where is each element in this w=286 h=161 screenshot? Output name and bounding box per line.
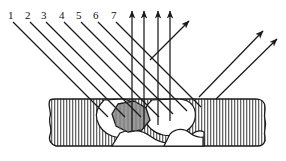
ray-label-5: 5 [76, 10, 82, 21]
figure-canvas: 1 2 3 4 5 6 7 [0, 0, 286, 161]
ray-label-6: 6 [93, 10, 99, 21]
ray-label-3: 3 [41, 10, 47, 21]
ray-diagram-svg [0, 0, 286, 161]
ray-label-4: 4 [59, 10, 65, 21]
exit-ray-2 [199, 31, 263, 97]
incident-ray-6 [98, 22, 187, 111]
ray-label-2: 2 [25, 10, 31, 21]
ray-label-1: 1 [8, 10, 14, 21]
diagonal-exit-rays [150, 21, 277, 99]
ray-label-7: 7 [111, 10, 117, 21]
